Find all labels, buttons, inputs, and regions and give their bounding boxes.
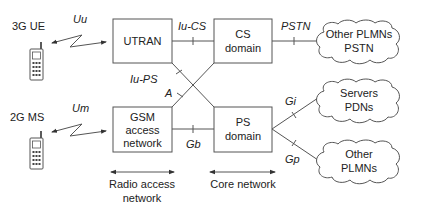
mobile-phone-icon — [30, 42, 43, 80]
core-span-label: Core network — [210, 178, 276, 190]
cs-label-line1: CS — [235, 28, 250, 40]
ms2g-label: 2G MS — [10, 111, 44, 123]
cs-domain-node: CS domain — [214, 19, 272, 63]
cloud3-line2: PLMNs — [341, 162, 378, 174]
iups-label: Iu-PS — [130, 73, 158, 85]
gb-link: Gb — [172, 125, 214, 150]
gi-label: Gi — [285, 95, 297, 107]
cs-label-line2: domain — [225, 42, 261, 54]
ue3g-terminal: 3G UE — [12, 20, 45, 80]
cloud2-line1: Servers — [340, 87, 378, 99]
ps-domain-node: PS domain — [214, 107, 272, 152]
radio-span-line1: Radio access — [109, 178, 176, 190]
um-air-link: Um — [52, 102, 106, 136]
ps-label-line2: domain — [225, 130, 261, 142]
cross-links: Iu-PS A — [130, 63, 214, 107]
ps-label-line1: PS — [236, 116, 251, 128]
uu-label: Uu — [73, 13, 87, 25]
gsm-label-line2: access — [125, 124, 160, 136]
cloud3-line1: Other — [345, 148, 373, 160]
cloud2-line2: PDNs — [345, 101, 374, 113]
gp-label: Gp — [285, 153, 300, 165]
um-label: Um — [72, 102, 89, 114]
uu-air-link: Uu — [52, 13, 106, 47]
network-architecture-diagram: 3G UE 2G MS Uu Um Iu-PS A Iu-CS Gb — [0, 0, 422, 209]
utran-node: UTRAN — [113, 19, 172, 63]
gsm-label-line3: network — [123, 137, 162, 149]
cloud1-line2: PSTN — [344, 42, 373, 54]
a-label: A — [164, 87, 172, 99]
a-tick — [177, 93, 183, 97]
radio-span-line2: network — [123, 192, 162, 204]
cloud-servers-pdns: Servers PDNs — [317, 79, 400, 123]
cloud1-line1: Other PLMNs — [326, 28, 393, 40]
utran-label: UTRAN — [124, 35, 162, 47]
pstn-link: PSTN — [272, 20, 316, 45]
gb-label: Gb — [186, 138, 201, 150]
gsm-access-node: GSM access network — [113, 107, 172, 152]
core-network-span: Core network — [210, 172, 276, 190]
gsm-label-line1: GSM — [130, 111, 155, 123]
ue3g-label: 3G UE — [12, 20, 45, 32]
cloud-other-plmns: Other PLMNs — [317, 140, 400, 184]
cloud-other-plmns-pstn: Other PLMNs PSTN — [317, 20, 400, 64]
mobile-phone-icon — [30, 131, 43, 169]
gi-link: Gi — [272, 95, 318, 129]
iucs-link: Iu-CS — [172, 20, 214, 45]
pstn-label: PSTN — [281, 20, 310, 32]
gp-link: Gp — [272, 129, 318, 165]
ms2g-terminal: 2G MS — [10, 111, 44, 169]
iucs-label: Iu-CS — [178, 20, 207, 32]
radio-access-span: Radio access network — [109, 172, 176, 204]
